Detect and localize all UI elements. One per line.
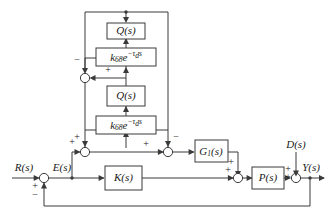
sign-right-sum-minus: − — [173, 131, 179, 142]
arrowhead-q-mid-in — [123, 106, 129, 112]
arrowhead-right-sum-left-in — [158, 149, 164, 155]
sign-main-sum-minus: − — [32, 189, 38, 200]
node-dot-e-branch — [70, 176, 73, 179]
sign-inner-sum-minus: − — [74, 54, 80, 65]
arrowhead-inner-sum-right-in — [90, 75, 96, 81]
block-diagram-svg: Q(s) k68e−τds Q(s) k68e−τds G1(s) K(s) P… — [0, 0, 330, 217]
sum-junction-main — [39, 173, 48, 182]
arrowhead-left-sum-left-in — [75, 149, 81, 155]
sum-junction-right — [163, 147, 172, 156]
label-disturbance-signal: D(s) — [285, 138, 306, 151]
wire-e-branch-to-left-sum — [72, 152, 80, 178]
sign-left-sum-plus-top: + — [74, 131, 80, 142]
block-q-mid-label: Q(s) — [116, 89, 136, 102]
arrowhead-right-sum-top-in — [165, 141, 171, 147]
sum-junction-left — [80, 147, 89, 156]
sign-plant-sum-plus-top: + — [228, 156, 234, 167]
arrowhead-k-in — [99, 175, 105, 181]
block-g1-label: G1(s) — [199, 144, 223, 158]
block-q-top-label: Q(s) — [116, 24, 136, 37]
sum-junction-inner — [80, 73, 89, 82]
arrowhead-main-sum-feedback-in — [41, 183, 47, 189]
sum-junction-plant-input — [233, 173, 242, 182]
arrowhead-y-out — [319, 175, 325, 181]
block-diagram-canvas: Q(s) k68e−τds Q(s) k68e−τds G1(s) K(s) P… — [0, 0, 330, 217]
arrowhead-delay-top-in — [123, 67, 129, 73]
arrowhead-left-sum-top-in — [82, 141, 88, 147]
sign-output-sum-plus-left: + — [285, 171, 291, 182]
sign-mid-plus: + — [143, 138, 149, 149]
arrowhead-g1-in — [189, 149, 195, 155]
block-k-label: K(s) — [113, 171, 133, 184]
label-reference-signal: R(s) — [14, 161, 34, 174]
arrowhead-q-top-in — [123, 17, 129, 23]
sign-inner-sum-plus: + — [105, 64, 111, 75]
label-output-signal: Y(s) — [302, 161, 320, 174]
block-p-label: P(s) — [258, 171, 278, 184]
label-error-signal: E(s) — [52, 161, 72, 174]
